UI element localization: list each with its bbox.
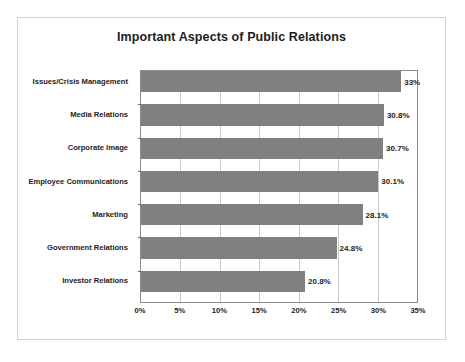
category-label: Government Relations — [0, 243, 134, 252]
category-label: Marketing — [0, 209, 134, 218]
category-label: Employee Communications — [0, 176, 134, 185]
category-label: Investor Relations — [0, 276, 134, 285]
x-tick-label: 25% — [331, 306, 346, 315]
x-tick-label: 35% — [410, 306, 425, 315]
value-axis-labels: 0%5%10%15%20%25%30%35% — [140, 306, 418, 326]
x-tick-label: 5% — [174, 306, 185, 315]
x-tick-label: 15% — [252, 306, 267, 315]
x-tick-label: 10% — [212, 306, 227, 315]
x-tick-label: 20% — [291, 306, 306, 315]
category-label: Corporate Image — [0, 143, 134, 152]
chart-figure: Important Aspects of Public Relations 33… — [0, 0, 465, 362]
x-tick-label: 0% — [135, 306, 146, 315]
x-tick-label: 30% — [371, 306, 386, 315]
category-label: Media Relations — [0, 109, 134, 118]
category-label: Issues/Crisis Management — [0, 76, 134, 85]
